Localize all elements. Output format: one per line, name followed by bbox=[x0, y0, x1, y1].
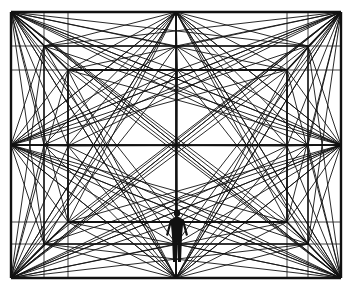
room-illustration bbox=[0, 0, 351, 288]
